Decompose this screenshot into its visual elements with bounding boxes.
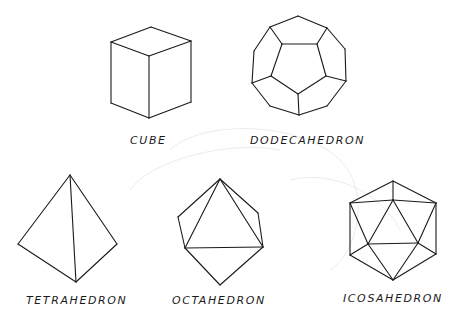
dodecahedron-edge	[270, 27, 282, 44]
icosahedron-edge	[393, 200, 436, 203]
icosahedron-drawing	[350, 181, 436, 280]
tetrahedron-edge	[70, 175, 76, 282]
dodecahedron-edge	[298, 94, 299, 115]
dodecahedron-edge	[317, 28, 327, 44]
cube-edge	[149, 102, 191, 118]
dodecahedron-edge	[299, 106, 327, 115]
cube-edge	[111, 103, 149, 118]
octahedron-edge	[185, 248, 220, 285]
octahedron-edge	[178, 217, 185, 248]
dodecahedron-label: DODECAHEDRON	[250, 135, 365, 147]
dodecahedron-edge	[271, 44, 282, 76]
dodecahedron-edge	[327, 81, 346, 106]
dodecahedron-edge	[270, 106, 299, 115]
cube-drawing	[111, 27, 191, 118]
tetrahedron-label: TETRAHEDRON	[26, 295, 127, 307]
cube-edge	[149, 41, 191, 56]
octahedron-edge	[220, 247, 263, 285]
icosahedron-edge	[393, 181, 436, 203]
icosahedron-edge	[393, 254, 436, 280]
drawing-canvas	[0, 0, 452, 318]
dodecahedron-edge	[317, 44, 326, 76]
tetrahedron-edge	[18, 244, 76, 282]
icosahedron-edge	[368, 200, 393, 244]
octahedron-edge	[185, 179, 220, 248]
tetrahedron-edge	[70, 175, 117, 244]
icosahedron-edge	[350, 255, 393, 280]
dodecahedron-edge	[271, 76, 298, 94]
dodecahedron-edge	[252, 83, 270, 106]
icosahedron-edge	[350, 200, 393, 203]
icosahedron-label: ICOSAHEDRON	[343, 293, 443, 305]
dodecahedron-edge	[252, 76, 271, 83]
octahedron-edge	[220, 179, 263, 247]
tetrahedron-drawing	[18, 175, 117, 282]
dodecahedron-drawing	[252, 16, 346, 115]
dodecahedron-edge	[345, 49, 346, 81]
tetrahedron-edge	[76, 244, 117, 282]
octahedron-edge	[178, 179, 220, 217]
icosahedron-edge	[393, 243, 418, 280]
dodecahedron-edge	[254, 27, 270, 51]
dodecahedron-edge	[252, 51, 254, 83]
cube-edge	[151, 27, 191, 41]
tetrahedron-edge	[18, 175, 70, 244]
dodecahedron-edge	[270, 16, 298, 27]
octahedron-edge	[258, 213, 263, 247]
octahedron-edge	[220, 179, 258, 213]
octahedron-drawing	[178, 179, 263, 285]
cube-label: CUBE	[130, 135, 167, 147]
octahedron-label: OCTAHEDRON	[172, 295, 266, 307]
icosahedron-edge	[418, 243, 436, 254]
icosahedron-edge	[393, 200, 418, 243]
dodecahedron-edge	[327, 28, 345, 49]
dodecahedron-edge	[326, 76, 346, 81]
cube-edge	[111, 27, 151, 42]
icosahedron-edge	[368, 243, 418, 244]
cube-edge	[111, 42, 149, 56]
platonic-solids-figure: CUBE DODECAHEDRON TETRAHEDRON OCTAHEDRON…	[0, 0, 452, 318]
octahedron-edge	[185, 247, 263, 248]
icosahedron-edge	[350, 244, 368, 255]
icosahedron-edge	[418, 203, 436, 243]
dodecahedron-edge	[298, 76, 326, 94]
icosahedron-edge	[368, 244, 393, 280]
dodecahedron-edge	[298, 16, 327, 28]
